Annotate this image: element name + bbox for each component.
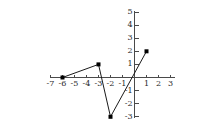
data-point-marker (61, 76, 65, 80)
y-tick-label: 5 (127, 7, 132, 16)
x-tick-label: 2 (156, 79, 161, 88)
y-tick-label: 4 (127, 20, 132, 29)
y-tick-label: 2 (127, 46, 132, 55)
data-point-marker (97, 62, 101, 66)
y-tick-label: 1 (127, 59, 132, 68)
chart-figure: -7-6-5-4-3-2-1123 54321-1-2-3 (0, 0, 197, 134)
x-tick-label: -5 (71, 79, 79, 88)
x-tick-label: -3 (95, 79, 103, 88)
y-axis-ticks: 54321-1-2-3 (125, 7, 139, 121)
coordinate-plane-plot: -7-6-5-4-3-2-1123 54321-1-2-3 (0, 0, 197, 134)
y-tick-label: -3 (125, 112, 133, 121)
x-tick-label: 3 (168, 79, 173, 88)
y-tick-label: -1 (125, 86, 133, 95)
x-tick-label: -2 (107, 79, 115, 88)
y-tick-label: -2 (125, 99, 133, 108)
x-tick-label: -7 (47, 79, 55, 88)
x-tick-label: 1 (144, 79, 149, 88)
data-point-marker (145, 49, 149, 53)
x-tick-label: -6 (59, 79, 67, 88)
y-tick-label: 3 (127, 33, 132, 42)
data-point-marker (109, 115, 113, 119)
axes-group (50, 11, 175, 119)
x-tick-label: -4 (83, 79, 91, 88)
